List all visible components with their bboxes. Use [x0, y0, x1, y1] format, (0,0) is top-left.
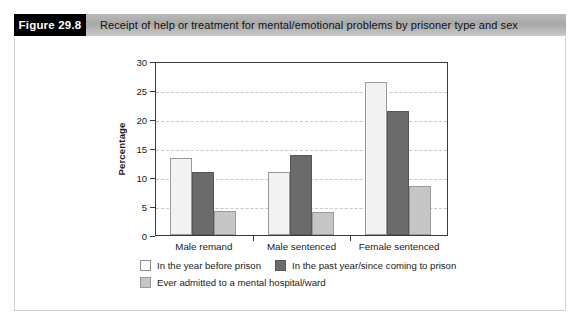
figure-caption: Receipt of help or treatment for mental/…: [86, 14, 566, 36]
figure-header: Figure 29.8 Receipt of help or treatment…: [14, 14, 566, 36]
legend-label-series-2: Ever admitted to a mental hospital/ward: [157, 277, 326, 288]
legend-swatch-icon-series-0: [140, 260, 151, 271]
figure-number-badge: Figure 29.8: [14, 14, 86, 36]
legend-swatch-icon-series-2: [140, 277, 151, 288]
legend-item-year-before-prison: In the year before prison: [140, 260, 261, 271]
legend-label-series-0: In the year before prison: [157, 260, 261, 271]
legend-label-series-1: In the past year/since coming to prison: [292, 260, 456, 271]
legend-item-mental-hospital: Ever admitted to a mental hospital/ward: [140, 277, 326, 288]
chart-legend: In the year before prison In the past ye…: [140, 260, 520, 294]
legend-row-1: In the year before prison In the past ye…: [140, 260, 520, 271]
legend-swatch-icon-series-1: [275, 260, 286, 271]
figure-container: Figure 29.8 Receipt of help or treatment…: [0, 0, 578, 327]
legend-item-past-year-since-prison: In the past year/since coming to prison: [275, 260, 456, 271]
legend-row-2: Ever admitted to a mental hospital/ward: [140, 277, 520, 288]
